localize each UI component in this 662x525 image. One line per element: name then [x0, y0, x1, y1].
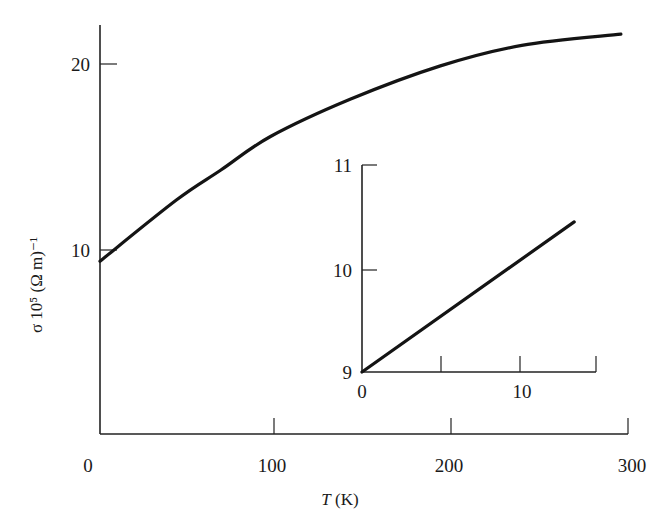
- main-y-tick-label: 20: [71, 54, 90, 75]
- main-x-tick-label: 100: [258, 455, 287, 476]
- inset-x-tick-label: 0: [357, 381, 367, 402]
- inset-plot: 0 10 9 10 11: [333, 155, 596, 402]
- inset-x-tick-label: 10: [513, 381, 532, 402]
- inset-y-tick-label: 11: [334, 155, 352, 176]
- main-x-tick-label: 200: [435, 455, 464, 476]
- y-axis-title: σ 10⁵ (Ω m)⁻¹: [27, 237, 46, 333]
- main-x-tick-label: 0: [83, 455, 93, 476]
- main-conductivity-curve: [100, 34, 621, 261]
- inset-y-tick-label: 9: [343, 362, 353, 383]
- x-axis-title: T (K): [321, 490, 358, 509]
- inset-conductivity-line: [362, 222, 574, 372]
- x-axis-unit: (K): [331, 490, 359, 509]
- chart-canvas: 0 100 200 300 10 20 T (K) σ 10⁵ (Ω m)⁻¹ …: [0, 0, 662, 525]
- main-x-tick-label: 300: [618, 455, 647, 476]
- main-y-tick-label: 10: [71, 240, 90, 261]
- inset-y-tick-label: 10: [333, 260, 352, 281]
